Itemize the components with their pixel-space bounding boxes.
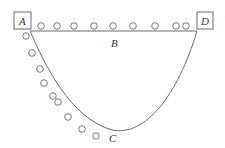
ball-icon [79, 126, 86, 133]
ball-icon [152, 23, 159, 30]
brachistochrone-diagram: A D B C [0, 0, 225, 148]
ball-icon [110, 23, 117, 30]
balls-curved-path [23, 33, 100, 140]
ball-icon [130, 23, 137, 30]
ball-icon [173, 23, 180, 30]
ball-icon [183, 23, 190, 30]
ball-icon [23, 33, 30, 40]
balls-straight-path [38, 23, 190, 30]
ball-icon [54, 23, 61, 30]
ball-icon [93, 133, 100, 140]
ball-icon [71, 23, 78, 30]
label-b: B [111, 37, 118, 49]
label-d: D [200, 15, 209, 27]
ball-icon [29, 50, 36, 57]
ball-icon [50, 93, 57, 100]
label-c: C [109, 132, 117, 144]
ball-icon [55, 99, 62, 106]
ball-icon [38, 23, 45, 30]
ball-icon [65, 114, 72, 121]
label-a: A [18, 15, 26, 27]
ball-icon [41, 80, 48, 87]
ball-icon [91, 23, 98, 30]
ball-icon [37, 66, 44, 73]
